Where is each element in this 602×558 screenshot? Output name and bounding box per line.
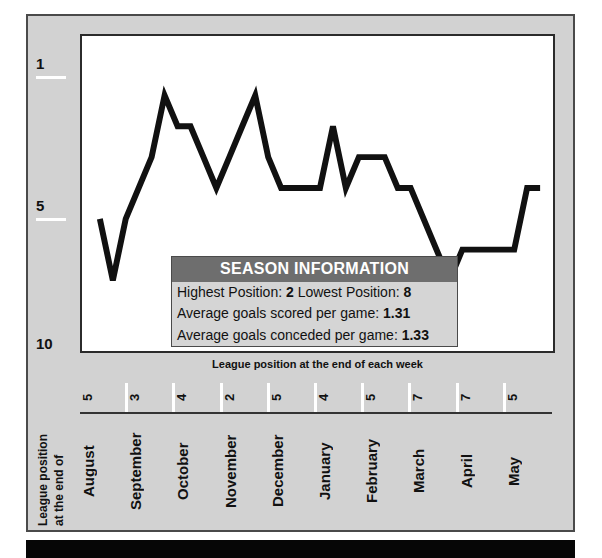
lowest-position-label: Lowest Position: (298, 284, 400, 300)
x-axis-week-count: 7 (458, 385, 504, 409)
x-axis-divider (314, 383, 317, 412)
y-tick-mark-5 (36, 218, 66, 221)
y-tick-mark-1 (36, 76, 66, 79)
league-position-line (100, 95, 540, 280)
x-axis-week-count: 5 (363, 385, 409, 409)
x-axis-month-november: 2November (222, 381, 268, 526)
avg-goals-conceded-label: Average goals conceded per game: (177, 327, 398, 343)
x-axis-divider (456, 383, 459, 412)
x-axis-week-count: 2 (222, 385, 268, 409)
highest-position-value: 2 (286, 284, 294, 300)
x-axis-month-label: October (174, 417, 220, 525)
x-axis-week-count: 3 (127, 385, 173, 409)
x-axis-week-count: 4 (316, 385, 362, 409)
y-axis-title-line-1: League position (36, 381, 50, 526)
x-axis-month-december: 5December (269, 381, 315, 526)
season-info-row-positions: Highest Position: 2 Lowest Position: 8 (172, 282, 457, 303)
x-axis-week-count: 4 (174, 385, 220, 409)
x-axis-month-label: January (316, 417, 362, 525)
x-axis-divider (361, 383, 364, 412)
season-info-row-goals-scored: Average goals scored per game: 1.31 (172, 303, 457, 324)
lowest-position-value: 8 (403, 284, 411, 300)
season-information-header: SEASON INFORMATION (172, 257, 457, 282)
x-axis-caption: League position at the end of each week (80, 358, 555, 370)
y-tick-label-10: 10 (36, 336, 53, 351)
avg-goals-scored-value: 1.31 (383, 305, 410, 321)
season-information-box: SEASON INFORMATION Highest Position: 2 L… (171, 256, 458, 347)
x-axis-month-label: February (363, 417, 409, 525)
x-axis-month-october: 4October (174, 381, 220, 526)
season-info-row-goals-conceded: Average goals conceded per game: 1.33 (172, 325, 457, 346)
x-axis-month-label: September (127, 417, 173, 525)
x-axis-week-count: 5 (80, 385, 126, 409)
bottom-black-bar (26, 540, 575, 558)
x-axis-month-label: December (269, 417, 315, 525)
x-axis-month-label: August (80, 417, 126, 525)
x-axis-week-count: 5 (505, 385, 551, 409)
x-axis-month-label: March (410, 417, 456, 525)
x-axis-month-september: 3September (127, 381, 173, 526)
chart-panel: 1 5 10 League position at the end of eac… (26, 14, 575, 532)
x-axis-month-label: May (505, 417, 551, 525)
x-axis-divider (408, 383, 411, 412)
x-axis-month-april: 7April (458, 381, 504, 526)
x-axis-month-march: 7March (410, 381, 456, 526)
x-axis-divider (503, 383, 506, 412)
x-axis-month-may: 5May (505, 381, 551, 526)
x-axis-divider (125, 383, 128, 412)
x-axis: 5August3September4October2November5Decem… (80, 381, 555, 526)
y-tick-label-5: 5 (36, 198, 44, 213)
x-axis-month-february: 5February (363, 381, 409, 526)
y-axis-title: League position at the end of (34, 381, 78, 526)
x-axis-month-label: November (222, 417, 268, 525)
x-axis-divider (172, 383, 175, 412)
y-axis-title-line-2: at the end of (52, 381, 66, 526)
x-axis-week-count: 7 (410, 385, 456, 409)
x-axis-month-label: April (458, 417, 504, 525)
x-axis-divider (267, 383, 270, 412)
x-axis-week-count: 5 (269, 385, 315, 409)
y-tick-label-1: 1 (36, 56, 44, 71)
x-axis-divider (220, 383, 223, 412)
avg-goals-scored-label: Average goals scored per game: (177, 305, 379, 321)
avg-goals-conceded-value: 1.33 (402, 327, 429, 343)
x-axis-month-august: 5August (80, 381, 126, 526)
highest-position-label: Highest Position: (177, 284, 282, 300)
x-axis-month-january: 4January (316, 381, 362, 526)
